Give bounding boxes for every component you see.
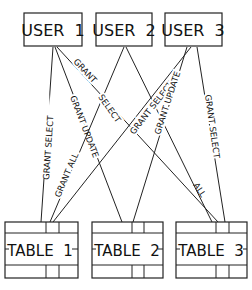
edge-u1-t3: GRANT ALL — [57, 47, 218, 222]
edge-label: GRANT ALL — [53, 151, 81, 199]
edge-label-u2-t1-select-part: SELECT — [96, 92, 123, 125]
user-node-3[interactable]: USER 3 — [161, 13, 224, 46]
user-label: USER 2 — [92, 21, 155, 40]
user-node-1[interactable]: USER 1 — [21, 13, 84, 46]
table-label: TABLE 3 — [177, 242, 243, 260]
edge-u3-t1 — [53, 47, 191, 222]
table-node-2[interactable]: TABLE 2 — [92, 222, 163, 278]
table-label: TABLE 1 — [6, 242, 72, 260]
edge-label: GRANT SELECT — [203, 94, 222, 160]
user-label: USER 3 — [161, 21, 224, 40]
table-node-3[interactable]: TABLE 3 — [176, 222, 247, 278]
privilege-diagram: GRANT SELECT GRANT UPDATE GRANT ALL GRAN… — [0, 0, 252, 290]
edge-label: GRANT UPDATE — [68, 94, 101, 159]
edge-label-part: GRANT — [72, 57, 100, 86]
table-node-1[interactable]: TABLE 1 — [5, 222, 78, 278]
table-label: TABLE 2 — [93, 242, 159, 260]
edge-u2-t3 — [126, 47, 212, 222]
user-node-2[interactable]: USER 2 — [92, 13, 155, 46]
user-label: USER 1 — [21, 21, 84, 40]
